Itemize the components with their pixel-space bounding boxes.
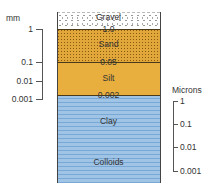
left-tick-label: 0.001 — [12, 94, 33, 104]
right-axis-tick — [173, 147, 178, 148]
boundary-label: 1.0 — [57, 24, 160, 34]
right-axis-tick — [173, 171, 178, 172]
soil-particle-size-diagram: mm 1 0.1 0.01 0.001 Gravel 1.0 Sand 0.05… — [0, 0, 220, 189]
right-tick-label: 0.1 — [180, 119, 192, 129]
right-axis-tick — [173, 124, 178, 125]
left-tick-label: 1 — [28, 24, 33, 34]
clay-colloid-layer — [57, 95, 160, 183]
right-axis-unit: Microns — [172, 85, 202, 95]
left-axis-tick — [36, 29, 42, 30]
right-tick-label: 0.01 — [180, 142, 197, 152]
right-tick-label: 0.001 — [180, 166, 201, 176]
boundary-label: 0.002 — [57, 90, 160, 100]
right-axis-tick — [173, 101, 178, 102]
clay-label: Clay — [57, 116, 160, 126]
left-axis-unit: mm — [6, 13, 20, 23]
silt-label: Silt — [57, 73, 160, 83]
colloids-label: Colloids — [57, 157, 160, 167]
column-right-edge — [160, 12, 161, 183]
sand-label: Sand — [57, 39, 160, 49]
left-axis-tick — [36, 81, 42, 82]
boundary-label: 0.05 — [57, 57, 160, 67]
left-axis-tick — [36, 99, 42, 100]
left-axis-line — [42, 29, 43, 100]
left-tick-label: 0.1 — [21, 57, 33, 67]
right-tick-label: 1 — [180, 96, 185, 106]
gravel-label: Gravel — [57, 12, 160, 22]
right-axis-line — [173, 101, 174, 172]
left-tick-label: 0.01 — [16, 76, 33, 86]
left-axis-tick — [36, 62, 42, 63]
